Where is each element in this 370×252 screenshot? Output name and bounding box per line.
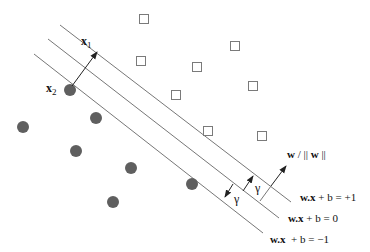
normal-vector-label: w / || w ||	[287, 148, 326, 160]
circle-point	[70, 145, 82, 157]
x1-label: x1	[81, 34, 92, 50]
circle-point	[90, 112, 102, 124]
negative-class-points	[17, 84, 198, 208]
hyperplanes	[34, 25, 291, 233]
x2-to-x1-arrow	[72, 52, 97, 86]
circle-point	[64, 84, 76, 96]
gamma-upper-arrow	[243, 176, 253, 191]
circle-point	[125, 162, 137, 174]
normal-vector-arrow	[271, 166, 286, 186]
decision-boundary-line	[48, 39, 279, 218]
circle-point	[17, 121, 29, 133]
square-point	[140, 15, 149, 24]
margin-line-minus	[34, 54, 263, 233]
equation-minus-one: w.x + b = −1	[270, 233, 329, 245]
square-point	[137, 57, 146, 66]
x2-label: x2	[46, 81, 57, 97]
normal-tick	[260, 186, 271, 201]
circle-point	[186, 178, 198, 190]
square-point	[249, 82, 258, 91]
square-point	[231, 42, 240, 51]
positive-class-points	[137, 15, 267, 141]
svm-diagram: x1 x2 γ γ w / || w || w.x + b = +1 w.x +…	[0, 0, 370, 252]
circle-point	[107, 196, 119, 208]
square-point	[204, 127, 213, 136]
equation-plus-one: w.x + b = +1	[300, 191, 356, 203]
gamma-lower-arrow	[225, 184, 233, 197]
equation-zero: w.x + b = 0	[288, 212, 339, 224]
gamma-lower-label: γ	[233, 192, 240, 206]
square-point	[258, 132, 267, 141]
square-point	[172, 91, 181, 100]
gamma-upper-label: γ	[254, 181, 261, 195]
square-point	[193, 63, 202, 72]
